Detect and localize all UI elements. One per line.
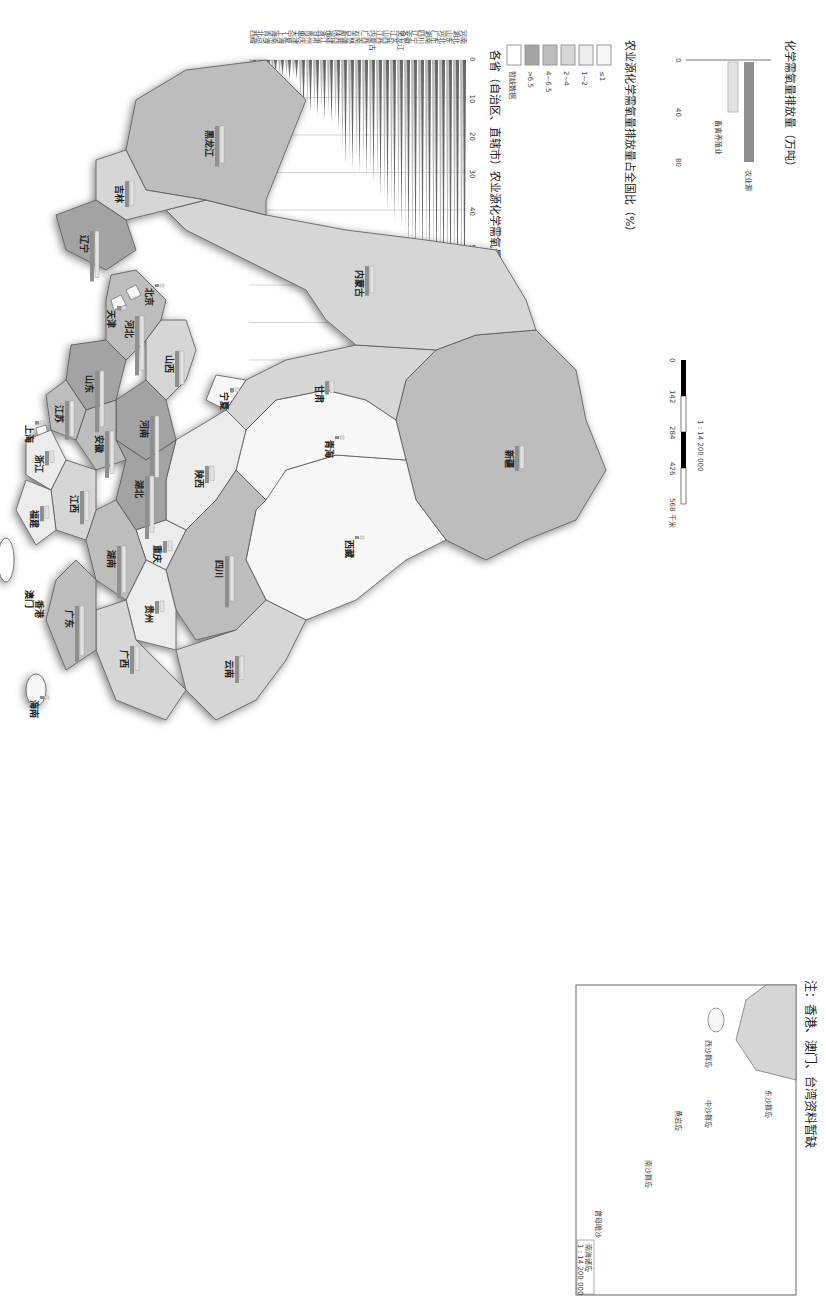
svg-text:西藏: 西藏 — [249, 30, 258, 44]
province-label: 宁夏 — [219, 392, 230, 411]
legend-label-2: 2~4 — [562, 71, 570, 86]
rank-bar-agri — [365, 60, 368, 176]
map-page: 化学需氧量排放量（万吨） 农业源 畜禽养殖业 0 40 80 农业源化学需氧量排… — [0, 0, 826, 1316]
province-label: 澳门 — [24, 590, 35, 608]
note-text: 注：香港、澳门、台湾资料暂缺 — [803, 980, 818, 1148]
rank-bar-livestock — [432, 60, 435, 266]
scale-bar: 1 : 14 200 000 0 142 284 426 568 千米 — [668, 358, 704, 528]
rank-bar-livestock — [355, 60, 358, 158]
province-label: 香港 — [34, 599, 45, 619]
scale-title: 1 : 14 200 000 — [696, 420, 704, 471]
rank-bar-agri — [407, 60, 410, 255]
label-dongsha: 东沙群岛 — [764, 1090, 773, 1118]
province-label: 浙江 — [34, 455, 45, 473]
rank-bar-livestock — [383, 60, 386, 199]
choropleth-legend: 农业源化学需氧量排放量占全国比（%） ≤1 1~2 2~4 4~6.5 >6.5… — [507, 40, 637, 237]
rank-bar-agri — [295, 60, 298, 79]
scale-tick-1: 142 — [668, 390, 676, 403]
rank-bar-livestock — [411, 60, 414, 255]
legend-swatch-1 — [579, 45, 593, 65]
inset-label: 南海诸岛 — [584, 1244, 593, 1272]
rank-bar-agri — [281, 60, 284, 75]
svg-text:0: 0 — [468, 57, 476, 61]
rank-bar-agri — [344, 60, 347, 165]
province-label: 广东 — [64, 610, 75, 628]
legend-swatch-3 — [543, 45, 557, 65]
tick-0: 0 — [674, 58, 682, 62]
province-label: 吉林 — [114, 185, 125, 204]
tick-80: 80 — [674, 158, 682, 167]
rank-bar-livestock — [313, 60, 316, 109]
rank-bar-agri — [288, 60, 291, 79]
rank-bar-livestock — [348, 60, 351, 161]
label-xisha: 西沙群岛 — [704, 1040, 713, 1068]
province-taiwan[interactable] — [0, 538, 14, 582]
label-nansha: 南沙群岛 — [644, 1160, 653, 1188]
rank-bar-livestock — [397, 60, 400, 214]
scale-tick-0: 0 — [668, 358, 676, 362]
label-zengmu: 曾母暗沙 — [594, 1210, 603, 1238]
bar-legend: 化学需氧量排放量（万吨） 农业源 畜禽养殖业 0 40 80 — [674, 40, 797, 191]
rank-bar-agri — [330, 60, 333, 124]
province-label: 山东 — [84, 375, 95, 393]
rank-bar-livestock — [341, 60, 344, 154]
province-label: 江西 — [69, 495, 80, 513]
rank-bar-livestock — [369, 60, 372, 173]
legend-swatch-0 — [597, 45, 611, 65]
legend-livestock-label: 畜禽养殖业 — [714, 120, 723, 155]
province-label: 天津 — [106, 310, 117, 328]
province-label: 湖南 — [106, 550, 117, 568]
rank-bar-livestock — [278, 60, 281, 71]
tick-40: 40 — [674, 108, 682, 117]
legend-label-5: 暂缺数据 — [508, 71, 517, 99]
rank-bar-livestock — [376, 60, 379, 184]
rank-bar-agri — [358, 60, 361, 173]
rank-bar-agri — [309, 60, 312, 113]
rank-bar-livestock — [306, 60, 309, 105]
rank-bar-livestock — [334, 60, 337, 120]
province-label: 甘肃 — [314, 385, 325, 403]
svg-text:30: 30 — [468, 170, 476, 179]
province-label: 江苏 — [54, 405, 65, 423]
province-label: 山西 — [164, 355, 175, 373]
province-label: 辽宁 — [79, 235, 90, 253]
province-label: 河南 — [139, 420, 150, 438]
province-label: 陕西 — [194, 470, 205, 488]
province-label: 云南 — [224, 660, 235, 678]
province-label: 北京 — [144, 288, 155, 306]
province-label: 广西 — [119, 650, 130, 668]
province-label: 青海 — [324, 440, 335, 458]
rank-bar-agri — [393, 60, 396, 221]
province-label: 湖北 — [134, 480, 145, 498]
rotated-map-sheet: 化学需氧量排放量（万吨） 农业源 畜禽养殖业 0 40 80 农业源化学需氧量排… — [0, 0, 826, 1316]
province-label: 贵州 — [144, 605, 155, 623]
rank-bar-agri — [351, 60, 354, 169]
legend-bar-agri — [744, 62, 754, 162]
legend-swatch-2 — [561, 45, 575, 65]
legend-agri-label: 农业源 — [744, 170, 753, 191]
province-label: 黑龙江 — [204, 130, 215, 157]
svg-text:10: 10 — [468, 95, 476, 104]
rank-bar-livestock — [418, 60, 421, 248]
province-label: 西藏 — [344, 540, 355, 558]
legend-label-4: >6.5 — [526, 71, 534, 88]
south-china-sea-inset: 西沙群岛 东沙群岛 中沙群岛 黄岩岛 南沙群岛 曾母暗沙 南海诸岛 1 : 14… — [576, 985, 796, 1295]
legend-swatch-5 — [507, 45, 521, 65]
province-neimenggu[interactable] — [166, 200, 536, 350]
province-label: 内蒙古 — [354, 270, 365, 297]
rank-bar-agri — [323, 60, 326, 120]
rank-bar-livestock — [285, 60, 288, 75]
rank-bar-livestock — [362, 60, 365, 161]
legend-title: 农业源化学需氧量排放量占全国比（%） — [623, 40, 637, 237]
rank-bar-livestock — [390, 60, 393, 206]
province-label: 福建 — [29, 509, 40, 529]
province-label: 新疆 — [504, 450, 515, 468]
rank-bar-livestock — [292, 60, 295, 75]
rank-bar-agri — [316, 60, 319, 116]
label-zhongsha: 中沙群岛 — [704, 1100, 713, 1128]
rank-bar-agri — [400, 60, 403, 229]
bar-legend-title: 化学需氧量排放量（万吨） — [783, 40, 797, 172]
scale-tick-3: 426 — [668, 462, 676, 476]
province-label: 重庆 — [152, 545, 163, 563]
rank-bar-agri — [337, 60, 340, 131]
